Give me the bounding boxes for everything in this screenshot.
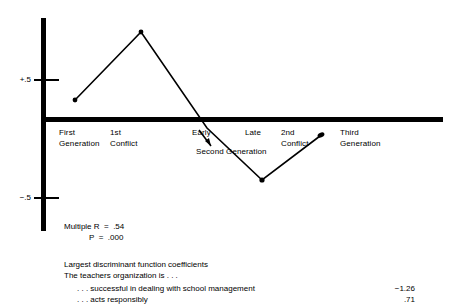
y-axis-line: [41, 18, 46, 231]
y-tick-minus-half: [34, 197, 59, 199]
multiple-r-stat: Multiple R = .54: [64, 221, 124, 232]
data-point-late-second-generation: [259, 177, 264, 182]
coefficient-row-label-0: . . . successful in dealing with school …: [77, 283, 255, 294]
x-label-first-generation-line1: First: [59, 128, 75, 138]
coefficients-heading: Largest discriminant function coefficien…: [64, 259, 208, 270]
data-point-first-generation: [73, 98, 78, 103]
data-point-1st-conflict: [139, 30, 144, 35]
y-tick-label-minus-half: −.5: [9, 193, 31, 202]
coefficient-row-value-1: .71: [355, 294, 415, 305]
x-label-2nd-conflict-line2: Conflict: [281, 139, 308, 149]
x-label-2nd-conflict-line1: 2nd: [281, 128, 295, 138]
data-line: [75, 32, 320, 180]
y-tick-label-plus-half: +.5: [9, 75, 31, 84]
x-label-third-generation-line2: Generation: [340, 139, 381, 149]
y-tick-plus-half: [34, 79, 59, 81]
p-value-stat: P = .000: [89, 232, 123, 243]
coefficient-row-value-0: −1.26: [355, 283, 415, 294]
coefficients-subheading: The teachers organization is . . .: [64, 270, 178, 281]
x-label-late-line1: Late: [245, 128, 261, 138]
chart-page: +.5 −.5 First Generation 1st Conflict Ea…: [0, 0, 457, 308]
x-axis-line: [41, 117, 443, 122]
coefficient-row-label-1: . . . acts responsibly: [77, 294, 148, 305]
x-label-second-generation: Second Generation: [196, 147, 267, 157]
x-label-1st-conflict-line2: Conflict: [110, 139, 137, 149]
x-label-1st-conflict-line1: 1st: [110, 128, 121, 138]
x-label-early-line1: Early: [192, 128, 211, 138]
x-label-first-generation-line2: Generation: [59, 139, 100, 149]
x-label-third-generation-line1: Third: [340, 128, 359, 138]
